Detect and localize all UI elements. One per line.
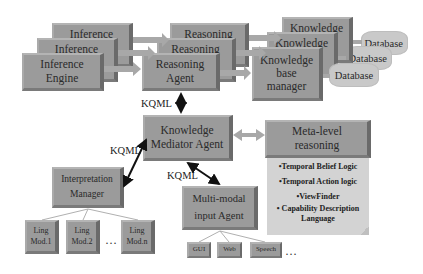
ling-module-tree-lines — [42, 209, 138, 220]
kb-database-connectors — [323, 40, 362, 78]
kqml-arrow-interpretation-mediator — [124, 140, 146, 186]
arrow-inference-to-reasoning-back — [133, 33, 169, 47]
kqml-arrow-mediator-multimodal — [188, 163, 219, 184]
input-tree-lines — [199, 231, 265, 242]
arrow-mediator-meta-level — [233, 129, 265, 141]
arrow-inference-to-reasoning-middle — [118, 46, 155, 60]
arrow-inference-to-reasoning-front — [104, 62, 141, 76]
connectors-overlay — [0, 0, 423, 274]
gray-arrows-reasoning-knowledge — [220, 31, 281, 80]
gray-arrows-inference-reasoning — [104, 33, 169, 76]
